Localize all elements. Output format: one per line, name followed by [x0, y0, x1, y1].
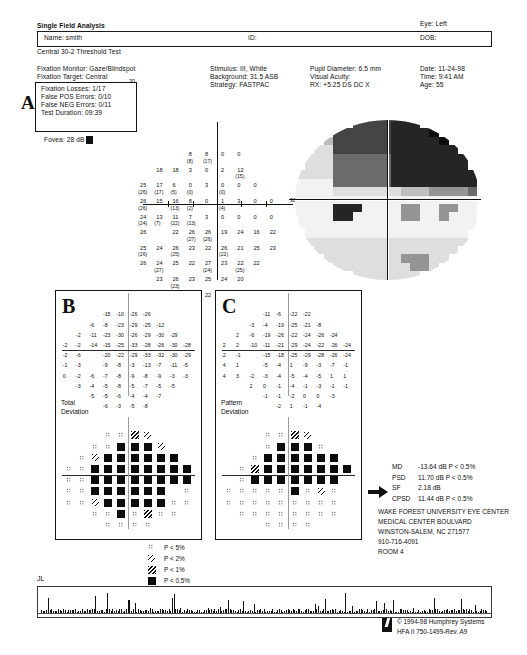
deviation-value: -30	[170, 352, 178, 358]
threshold-retest-value: (0)	[187, 189, 193, 195]
grayscale-cell	[401, 229, 411, 237]
symbol-p-lt-5	[292, 522, 298, 528]
patient-name-field[interactable]: Name: smith	[44, 34, 82, 42]
grayscale-cell	[401, 238, 411, 246]
grayscale-cell	[458, 229, 468, 237]
deviation-value: 3	[236, 373, 239, 379]
grayscale-cell	[372, 170, 382, 178]
grayscale-cell	[333, 263, 343, 271]
threshold-retest-value: (7)	[154, 220, 160, 226]
threshold-value: 22	[205, 292, 211, 298]
threshold-value: 0	[237, 214, 240, 220]
grayscale-cell	[391, 162, 401, 170]
grayscale-cell	[391, 154, 401, 162]
param-rx: RX: +5.25 DS DC X	[310, 81, 381, 89]
deviation-value: 4	[223, 373, 226, 379]
grayscale-cell	[458, 221, 468, 229]
deviation-value: -4	[303, 373, 308, 379]
symbol-p-lt-0_5	[170, 465, 178, 473]
threshold-value: 0	[221, 214, 224, 220]
symbol-p-lt-0_5	[157, 454, 165, 462]
symbol-p-lt-5	[265, 444, 271, 450]
deviation-value: -4	[263, 322, 268, 328]
deviation-value: -6	[116, 393, 121, 399]
grayscale-cell	[353, 120, 363, 128]
grayscale-cell	[420, 154, 430, 162]
deviation-value: -28	[317, 352, 325, 358]
threshold-retest-value: (26)	[138, 251, 147, 257]
threshold-value: 20	[237, 276, 243, 282]
symbol-p-lt-5	[92, 511, 98, 517]
symbol-p-lt-5	[318, 444, 324, 450]
deviation-value: -1	[276, 393, 281, 399]
grayscale-cell	[362, 154, 372, 162]
grayscale-cell	[343, 145, 353, 153]
threshold-value: 24	[156, 245, 162, 251]
grayscale-cell	[324, 204, 334, 212]
grayscale-cell	[314, 221, 324, 229]
symbol-p-lt-0_5	[144, 465, 152, 473]
grayscale-cell	[420, 162, 430, 170]
legend-item: P < 5%	[140, 543, 250, 554]
grayscale-cell	[333, 246, 343, 254]
global-index-name: SF	[392, 483, 418, 494]
grayscale-cell	[343, 179, 353, 187]
symbol-p-lt-2	[144, 432, 151, 439]
grayscale-cell	[343, 238, 353, 246]
symbol-p-lt-5	[278, 511, 284, 517]
symbol-p-lt-0_5	[291, 454, 299, 462]
symbol-p-lt-0_5	[157, 476, 165, 484]
patient-id-field[interactable]: ID:	[248, 34, 257, 42]
grayscale-cell	[449, 204, 459, 212]
deviation-value: -1	[343, 383, 348, 389]
symbol-p-lt-5	[318, 500, 324, 506]
symbol-p-lt-5	[252, 488, 258, 494]
grayscale-cell	[410, 170, 420, 178]
threshold-retest-value: (17)	[154, 189, 163, 195]
deviation-value: -29	[303, 352, 311, 358]
symbol-p-lt-1	[251, 465, 259, 473]
param-stimulus: Stimulus: III, White	[210, 65, 278, 73]
grayscale-cell	[468, 212, 478, 220]
grayscale-cell	[324, 145, 334, 153]
symbol-p-lt-0_5	[144, 454, 152, 462]
symbol-p-lt-2	[92, 499, 99, 506]
legend-label: P < 0.5%	[164, 577, 190, 584]
symbol-p-lt-0_5	[170, 476, 178, 484]
grayscale-cell	[410, 221, 420, 229]
deviation-value: -2	[63, 342, 68, 348]
symbol-p-lt-0_5	[317, 476, 325, 484]
deviation-value: -5	[90, 393, 95, 399]
symbol-p-lt-5	[148, 544, 154, 550]
symbol-p-lt-0_5	[117, 510, 125, 518]
symbol-p-lt-1	[148, 566, 156, 574]
symbol-p-lt-5	[252, 500, 258, 506]
patient-dob-field[interactable]: DOB:	[420, 34, 437, 42]
grid-axis-label-left: 30	[129, 78, 135, 84]
deviation-value: -2	[290, 393, 295, 399]
threshold-value: 23	[221, 260, 227, 266]
deviation-value: -12	[157, 322, 165, 328]
deviation-value: -19	[263, 332, 271, 338]
grayscale-cell	[314, 229, 324, 237]
grayscale-cell	[314, 170, 324, 178]
deviation-value: -11	[90, 332, 97, 338]
grayscale-cell	[333, 212, 343, 220]
deviation-value: 0	[317, 393, 320, 399]
deviation-value: -30	[157, 332, 165, 338]
symbol-p-lt-5	[278, 488, 284, 494]
global-index-name: PSD	[392, 473, 418, 484]
deviation-value: -7	[143, 383, 148, 389]
deviation-value: -6	[276, 311, 281, 317]
panel-a-letter: A	[21, 92, 35, 114]
deviation-value: -3	[170, 373, 175, 379]
symbol-p-lt-2	[318, 488, 325, 495]
threshold-value: 22	[254, 260, 260, 266]
deviation-value: -25	[116, 342, 124, 348]
grayscale-cell	[429, 246, 439, 254]
gaze-tracking-plot	[37, 586, 492, 618]
deviation-value: -23	[103, 332, 111, 338]
grayscale-cell	[429, 263, 439, 271]
grayscale-cell	[429, 137, 439, 145]
deviation-value: -29	[183, 352, 191, 358]
